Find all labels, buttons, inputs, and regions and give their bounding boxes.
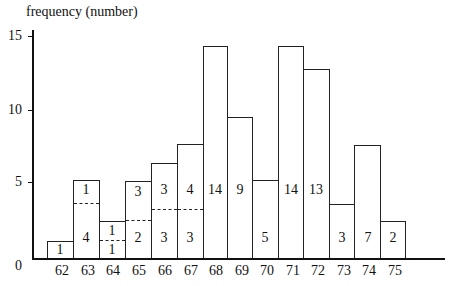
bar-63-upper-label: 1 [73,183,99,197]
x-tick-70: 70 [254,263,280,279]
x-tick-68: 68 [203,263,229,279]
y-tick-15: 15 [2,28,22,44]
bar-70-label: 5 [252,231,278,245]
x-tick-65: 65 [126,263,152,279]
bar-65-divider [126,220,151,221]
bar-63-divider [74,203,99,204]
bar-67-divider [178,209,203,210]
y-tick-5: 5 [2,174,22,190]
y-tick-0: 0 [2,258,22,274]
bar-68 [203,46,228,258]
x-tick-66: 66 [152,263,178,279]
bar-64-lower-label: 1 [99,243,125,257]
bar-68-label: 14 [202,183,228,197]
y-tick-10: 10 [2,102,22,118]
bar-62-label: 1 [47,243,73,257]
x-tick-62: 62 [49,263,75,279]
x-tick-71: 71 [280,263,306,279]
x-tick-69: 69 [229,263,255,279]
bar-63-lower-label: 4 [73,231,99,245]
bar-65-upper-label: 3 [125,185,151,199]
x-tick-74: 74 [356,263,382,279]
bar-73-label: 3 [329,231,355,245]
bar-66-divider [152,209,177,210]
bar-69-label: 9 [227,183,253,197]
bar-66-lower-label: 3 [151,231,177,245]
y-axis-label: frequency (number) [26,4,138,20]
bar-74-label: 7 [355,231,381,245]
x-tick-64: 64 [100,263,126,279]
bar-70 [252,180,279,258]
x-tick-67: 67 [178,263,204,279]
bar-64-divider [100,240,125,241]
bar-75-label: 2 [380,231,406,245]
bar-71 [278,46,304,258]
y-axis-line [32,30,34,260]
x-tick-63: 63 [75,263,101,279]
bar-72-label: 13 [303,183,329,197]
x-axis-line [32,258,445,260]
bar-71-label: 14 [278,183,304,197]
x-tick-75: 75 [382,263,408,279]
bar-72 [303,69,330,258]
x-tick-72: 72 [305,263,331,279]
bar-66-upper-label: 3 [151,183,177,197]
x-tick-73: 73 [331,263,357,279]
bar-64-upper-label: 1 [99,224,125,238]
bar-65-lower-label: 2 [125,231,151,245]
bar-67-lower-label: 3 [177,231,203,245]
bar-67-upper-label: 4 [177,183,203,197]
